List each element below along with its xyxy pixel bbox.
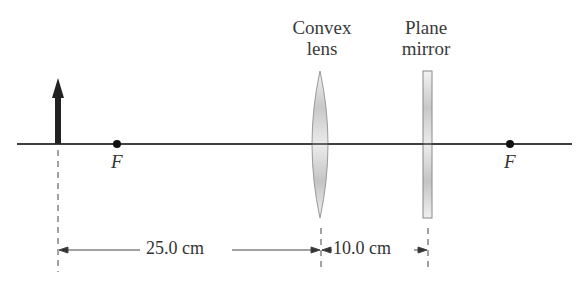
- object-arrow: [52, 78, 64, 144]
- focal-point-left: [113, 140, 121, 148]
- lens-label: Convex lens: [276, 17, 368, 59]
- focal-label-left: F: [111, 151, 123, 173]
- focal-point-right: [506, 140, 514, 148]
- dimension-lens-mirror: 10.0 cm: [332, 238, 392, 259]
- focal-label-right: F: [504, 151, 516, 173]
- mirror-label: Plane mirror: [380, 17, 472, 59]
- mirror-label-line2: mirror: [380, 38, 472, 59]
- mirror-label-line1: Plane: [380, 17, 472, 38]
- lens-label-line1: Convex: [276, 17, 368, 38]
- dimension-object-lens: 25.0 cm: [143, 238, 207, 259]
- lens-label-line2: lens: [276, 38, 368, 59]
